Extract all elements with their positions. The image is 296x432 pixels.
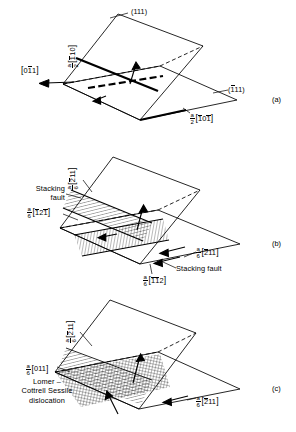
burgers-label-a2-m10m1: a 2 [101] — [190, 112, 213, 125]
fraction-a-over-2: a 2 — [190, 112, 195, 125]
burgers-label-b-a6-m1m12: a 6 [112] — [143, 274, 166, 287]
panel-b: a 6 [211] Stacking fault a 6 [121] a 6 [… — [0, 144, 296, 288]
fraction-a-over-6: a 6 — [196, 246, 201, 259]
fraction-a-over-6: a 6 — [64, 338, 77, 343]
panel-a-drawing — [0, 0, 296, 144]
panel-letter-c: (c) — [272, 384, 281, 393]
fraction-a-over-6: a 6 — [27, 206, 32, 219]
fraction-a-over-6: a 6 — [66, 185, 79, 190]
overbar-index: 2 — [204, 248, 208, 257]
burgers-label-a2-m110: a 2 [110] — [66, 45, 79, 68]
burgers-vector-left-head — [39, 80, 49, 88]
burgers-label-b-a6-m211-right: a 6 [211] — [196, 246, 219, 259]
overbar-index: 1 — [155, 276, 159, 285]
overbar-index: 2 — [68, 178, 77, 182]
leader-burgers-bottom — [150, 264, 152, 274]
burgers-label-c-a6-011: a 6 [011] — [26, 363, 49, 376]
burgers-label-b-a6-m12m1: a 6 [121] — [27, 206, 50, 219]
panel-letter-b: (b) — [272, 239, 281, 248]
overbar-index: 2 — [66, 331, 75, 335]
stacking-fault-label-upper: Stacking fault — [20, 184, 65, 203]
burgers-label-c-a6-m211-right: a 6 [211] — [196, 395, 219, 408]
dislocation-line-upper — [76, 58, 158, 91]
overbar-index: 1 — [231, 85, 235, 94]
plane-label-m111: (111) — [228, 85, 245, 94]
panel-letter-a: (a) — [272, 95, 281, 104]
fraction-a-over-6: a 6 — [143, 274, 148, 287]
upper-plane-dashed-edge — [158, 190, 200, 210]
panel-a: (111) (111) a 2 [110] [011] a 2 [101] (a… — [0, 0, 296, 144]
upper-plane-dashed-edge — [158, 333, 196, 352]
fraction-a-over-6: a 6 — [26, 363, 31, 376]
overbar-index: 1 — [35, 208, 39, 217]
panel-c: a 6 [211] a 6 [011] Lomer – Cottrell Ses… — [0, 288, 296, 432]
overbar-index: 1 — [198, 114, 202, 123]
burgers-label-b-a6-m211: a 6 [211] — [66, 167, 79, 190]
burgers-label-c-a6-m211: a 6 [211] — [64, 320, 77, 343]
leader-burgers-left — [63, 214, 78, 220]
leader-burgers-top — [80, 332, 92, 346]
upper-plane-dashed-edge — [160, 46, 203, 66]
leader-burgers-top — [83, 180, 92, 192]
plane-label-111: (111) — [131, 8, 147, 16]
overbar-index: 1 — [68, 56, 77, 60]
leader-stacking-fault-lower — [163, 262, 176, 268]
overbar-index: 1 — [28, 66, 32, 75]
stacking-fault-label-lower: Stacking fault — [176, 264, 222, 273]
lomer-cottrell-label: Lomer – Cottrell Sessile dislocation — [8, 377, 86, 405]
fraction-a-over-6: a 6 — [196, 395, 201, 408]
fraction-a-over-2: a 2 — [66, 63, 79, 68]
glide-arrow-up-head — [132, 62, 140, 70]
direction-label-0m11: [011] — [21, 66, 39, 75]
glide-arrow-up-head — [139, 205, 147, 213]
burgers-arrow-b1-head — [160, 249, 168, 256]
panel-c-drawing — [0, 288, 296, 432]
leader-plane-top — [110, 13, 128, 18]
overbar-index: 2 — [204, 397, 208, 406]
